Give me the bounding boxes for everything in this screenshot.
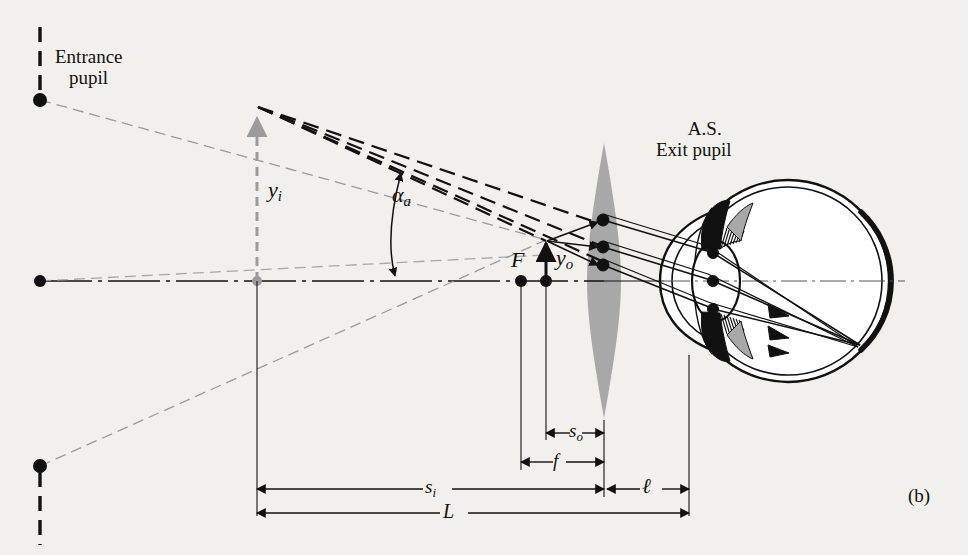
- angle-subscript: a: [404, 193, 411, 209]
- dimension-si-label: si: [425, 476, 436, 500]
- aperture-stop-label: A.S.: [688, 118, 722, 139]
- focal-point-label: F: [511, 248, 524, 273]
- panel-label: (b): [908, 485, 930, 506]
- object-height-label: yo: [556, 246, 573, 273]
- so-subscript: o: [576, 429, 582, 444]
- object-height-subscript: o: [566, 256, 573, 272]
- chief-rays-ghost: [40, 100, 546, 466]
- dimension-witness-lines: [257, 281, 689, 516]
- exit-pupil-label: A.S. Exit pupil: [678, 118, 731, 161]
- si-subscript: i: [432, 485, 436, 500]
- image-arrow: [252, 118, 262, 286]
- optics-diagram-svg: [0, 0, 968, 555]
- angle-symbol: α: [392, 182, 404, 207]
- angle-alpha-label: αa: [392, 183, 411, 210]
- entrance-pupil-marker-top: [33, 27, 47, 107]
- entrance-pupil-label-line2: pupil: [69, 67, 108, 88]
- dimension-L-label: L: [443, 500, 454, 522]
- axis-left-dot: [34, 275, 46, 287]
- object-arrow: [540, 243, 552, 287]
- dimension-l-label: ℓ: [642, 475, 651, 499]
- image-height-subscript: i: [278, 188, 282, 204]
- entrance-pupil-marker-bottom: [33, 459, 47, 545]
- image-height-label: yi: [268, 178, 282, 205]
- entrance-pupil-label: Entrance pupil: [55, 46, 123, 89]
- entrance-pupil-label-line1: Entrance: [55, 46, 123, 67]
- image-height-symbol: y: [268, 177, 278, 202]
- exit-pupil-label-line2: Exit pupil: [656, 139, 731, 160]
- figure-canvas: Entrance pupil A.S. Exit pupil yi αa F y…: [0, 0, 968, 555]
- object-height-symbol: y: [556, 245, 566, 270]
- dimension-so-label: so: [569, 420, 583, 444]
- dimension-f-label: f: [553, 450, 558, 471]
